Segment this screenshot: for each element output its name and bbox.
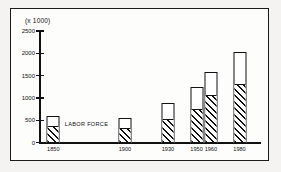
x-axis-line <box>39 142 261 144</box>
bar-labor-force-segment <box>119 128 130 142</box>
y-axis-tick-mark <box>36 30 44 31</box>
y-axis-unit-caption: (x 1000) <box>25 17 50 24</box>
y-axis-tick-label: 2000 <box>9 50 35 56</box>
y-axis-tick-mark <box>36 142 44 143</box>
bar <box>161 103 174 143</box>
y-axis-tick-mark <box>36 53 44 54</box>
x-axis-tick-label: 1980 <box>233 146 245 152</box>
plot-area: (x 1000) 05001000150020002500 1850190019… <box>11 9 270 162</box>
y-axis-tick-label: 0 <box>9 140 35 146</box>
chart-figure: (x 1000) 05001000150020002500 1850190019… <box>0 0 281 172</box>
y-axis-line <box>39 31 41 143</box>
x-axis-tick-label: 1930 <box>162 146 174 152</box>
labor-force-annotation: LABOR FORCE <box>65 121 108 127</box>
bar-labor-force-segment <box>162 119 173 142</box>
y-axis-tick-label: 2500 <box>9 28 35 34</box>
chart-frame: (x 1000) 05001000150020002500 1850190019… <box>10 8 269 161</box>
bar-labor-force-segment <box>205 95 216 142</box>
y-axis-tick-mark <box>36 75 44 76</box>
x-axis-tick-label: 1900 <box>119 146 131 152</box>
bar <box>118 118 131 143</box>
bar-labor-force-segment <box>234 84 245 142</box>
y-axis-tick-label: 1000 <box>9 95 35 101</box>
y-axis-tick-mark <box>36 120 44 121</box>
x-axis-tick-label: 1850 <box>47 146 59 152</box>
y-axis-tick-mark <box>36 97 44 98</box>
x-axis-tick-label: 1960 <box>205 146 217 152</box>
bar <box>233 52 246 143</box>
bar <box>47 116 60 143</box>
bar <box>190 87 203 143</box>
bar-labor-force-segment <box>191 109 202 142</box>
bar-labor-force-segment <box>48 126 59 142</box>
y-axis-tick-label: 500 <box>9 117 35 123</box>
x-axis-tick-label: 1950 <box>190 146 202 152</box>
bar <box>204 72 217 143</box>
y-axis-tick-label: 1500 <box>9 73 35 79</box>
